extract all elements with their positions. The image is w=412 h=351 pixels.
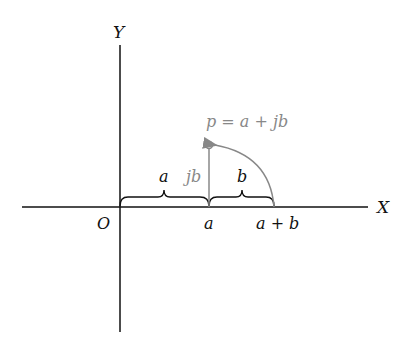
brace-a-label: a xyxy=(159,167,169,186)
complex-plane-diagram: Y X O p = a + jb a jb b a a + b xyxy=(0,0,412,351)
tick-label-a: a xyxy=(204,214,214,233)
tick-label-a-plus-b: a + b xyxy=(256,214,299,233)
y-axis-label: Y xyxy=(113,22,126,42)
origin-label: O xyxy=(97,214,110,233)
point-label: p = a + jb xyxy=(206,112,288,131)
brace-b xyxy=(209,190,274,206)
brace-a xyxy=(120,190,209,206)
point-p-center xyxy=(208,144,210,146)
x-axis-label: X xyxy=(375,197,390,217)
jb-label: jb xyxy=(183,167,201,186)
brace-b-label: b xyxy=(237,167,247,186)
